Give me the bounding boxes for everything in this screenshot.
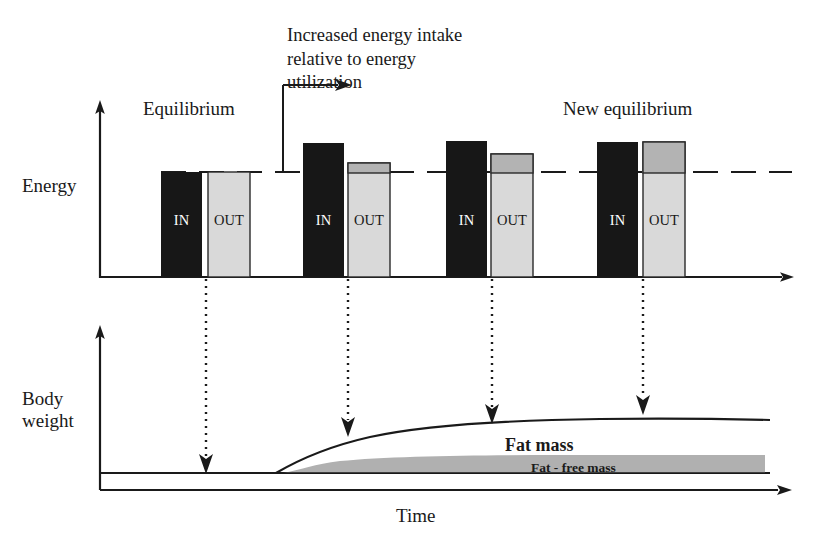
bar-in-4 — [597, 142, 638, 277]
bar-group-4 — [597, 142, 685, 277]
bar-out-label-3: OUT — [491, 212, 533, 229]
fat-mass-label: Fat mass — [505, 435, 574, 456]
fat-free-mass-band — [283, 455, 765, 473]
bar-out-4-cap — [643, 142, 685, 173]
bar-out-label-1: OUT — [208, 212, 250, 229]
bar-out-label-4: OUT — [643, 212, 685, 229]
bar-in-label-3: IN — [446, 212, 487, 229]
bar-in-label-2: IN — [303, 212, 344, 229]
bar-out-3-cap — [491, 154, 533, 173]
bar-in-label-1: IN — [161, 212, 202, 229]
time-axis-label: Time — [396, 505, 435, 527]
connector-lines — [199, 279, 650, 474]
phase-label-equilibrium: Equilibrium — [143, 98, 235, 120]
energy-balance-figure: Energy Body weight Equilibrium New equil… — [0, 0, 822, 546]
bar-in-3 — [446, 141, 487, 277]
intake-annotation-label: Increased energy intake relative to ener… — [287, 24, 462, 95]
bar-in-label-4: IN — [597, 212, 638, 229]
bar-group-3 — [446, 141, 533, 277]
bodyweight-axis-label: Body weight — [22, 388, 74, 432]
bar-in-2 — [303, 143, 344, 277]
energy-axis-label: Energy — [22, 175, 77, 197]
fat-free-mass-label: Fat - free mass — [531, 460, 616, 476]
bodyweight-x-axis — [100, 485, 792, 495]
bodyweight-y-axis — [95, 325, 105, 490]
bar-out-2-cap — [348, 163, 390, 173]
energy-y-axis — [95, 100, 105, 278]
bar-out-label-2: OUT — [348, 212, 390, 229]
bar-group-2 — [303, 143, 390, 277]
phase-label-new-equilibrium: New equilibrium — [563, 98, 692, 120]
